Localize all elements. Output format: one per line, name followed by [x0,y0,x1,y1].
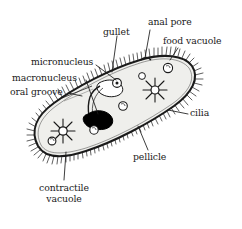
leader-gullet [112,36,117,72]
label-food-vacuole: food vacuole [163,36,221,47]
paramecium-diagram: gullet anal pore food vacuole micronucle… [0,0,242,229]
label-contractile-vacuole-line2: vacuole [46,193,81,204]
label-gullet: gullet [103,27,130,38]
micronucleus-dot [116,82,119,85]
label-macronucleus: macronucleus [12,73,77,84]
contractile-vacuole-left-center [59,127,67,135]
label-cilia: cilia [190,108,209,119]
leader-pellicle [138,126,148,150]
leader-cilia [168,110,188,114]
label-micronucleus: micronucleus [31,57,93,68]
label-contractile-vacuole-line1: contractile [39,182,89,193]
label-pellicle: pellicle [133,152,166,163]
contractile-vacuole-right-center [151,86,159,94]
label-oral-groove: oral groove [10,87,63,98]
label-anal-pore: anal pore [148,17,192,28]
label-contractile-vacuole: contractile vacuole [18,183,110,204]
